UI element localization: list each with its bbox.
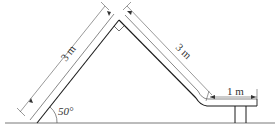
left-ramp [30,14,119,123]
platform-length-label: 1 m [227,85,244,97]
slide-diagram: 50° 3 m 3 m 1 m [0,0,278,132]
platform-legs [235,106,246,123]
right-dimension [123,2,212,95]
left-length-label: 3 m [58,42,78,63]
right-angle-marker [114,26,124,31]
angle-arc [50,107,57,123]
angle-label: 50° [58,105,74,117]
